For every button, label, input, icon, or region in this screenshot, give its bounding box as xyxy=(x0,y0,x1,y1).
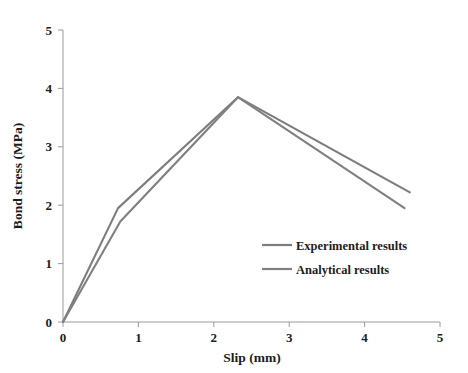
data-series-group xyxy=(63,97,410,322)
y-axis-tick-labels: 012345 xyxy=(46,23,53,330)
y-tick-label-3: 3 xyxy=(46,139,53,154)
x-tick-label-4: 4 xyxy=(361,330,368,345)
chart-legend: Experimental resultsAnalytical results xyxy=(262,239,407,277)
x-tick-label-1: 1 xyxy=(135,330,142,345)
y-axis-title: Bond stress (MPa) xyxy=(10,123,25,229)
y-tick-label-1: 1 xyxy=(46,256,53,271)
x-tick-label-2: 2 xyxy=(211,330,218,345)
legend-label-2: Analytical results xyxy=(296,263,389,277)
y-tick-label-4: 4 xyxy=(46,81,53,96)
y-tick-label-5: 5 xyxy=(46,23,53,38)
x-axis-ticks xyxy=(63,322,440,327)
legend-label-1: Experimental results xyxy=(296,239,407,253)
x-tick-label-3: 3 xyxy=(286,330,293,345)
y-tick-label-2: 2 xyxy=(46,198,53,213)
y-axis-ticks xyxy=(58,30,63,322)
chart-figure: 012345 012345 Bond stress (MPa) Slip (mm… xyxy=(0,0,468,373)
chart-canvas: 012345 012345 Bond stress (MPa) Slip (mm… xyxy=(0,0,468,373)
x-tick-label-5: 5 xyxy=(437,330,444,345)
x-axis-title: Slip (mm) xyxy=(223,350,280,365)
plot-container: 012345 012345 Bond stress (MPa) Slip (mm… xyxy=(0,0,468,373)
series-line-2 xyxy=(63,97,405,322)
y-tick-label-0: 0 xyxy=(46,315,53,330)
series-line-1 xyxy=(63,97,410,322)
x-axis-tick-labels: 012345 xyxy=(60,330,444,345)
x-tick-label-0: 0 xyxy=(60,330,67,345)
